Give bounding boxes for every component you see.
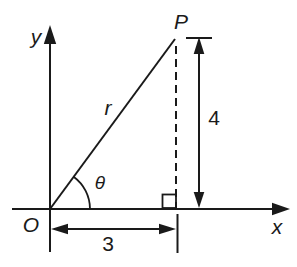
origin-label: O: [23, 214, 39, 235]
hypotenuse-line: [50, 39, 175, 209]
dimension-arrowhead-left-icon: [51, 224, 68, 235]
vertical-dimension-value: 4: [208, 107, 220, 128]
dimension-arrowhead-up-icon: [194, 37, 205, 54]
y-axis-arrowhead-icon: [44, 25, 56, 44]
hypotenuse-r-label: r: [105, 97, 112, 118]
angle-arc: [74, 177, 90, 209]
dimension-arrowhead-right-icon: [159, 224, 176, 235]
y-axis-label: y: [31, 26, 42, 47]
dimension-arrowhead-down-icon: [194, 192, 205, 208]
diagram-canvas: [0, 0, 297, 267]
x-axis-label: x: [272, 216, 283, 237]
x-axis-arrowhead-icon: [272, 203, 290, 215]
right-angle-marker: [163, 195, 177, 209]
angle-theta-label: θ: [95, 173, 105, 192]
point-p-label: P: [174, 11, 188, 32]
triangle-diagram: y P r θ 4 x O 3: [0, 0, 297, 267]
horizontal-dimension-value: 3: [102, 233, 114, 254]
